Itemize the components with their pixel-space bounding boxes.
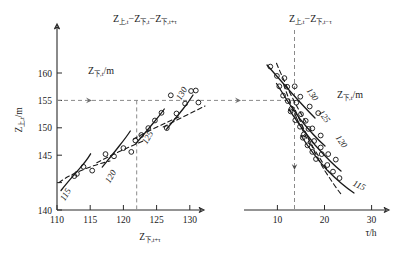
left-contour-label-120: 120 [103,168,119,185]
left-xtick-110: 110 [50,215,64,225]
right-contour-label-115: 115 [351,178,367,193]
nomograph-figure: 140 145 150 155 160 110 115 120 125 130 … [0,0,408,264]
right-family-label: Z下,t/m [337,89,363,102]
right-x-ticks [277,205,371,210]
left-ytick-155: 155 [38,96,53,106]
left-panel-title: Z上,t−Z下,t−Z下,t+τ [113,13,177,26]
right-panel-title: Z上,t−Z下,t−τ [289,13,332,26]
left-y-axis-label: Z上,t/m [14,107,25,133]
left-contour-label-125: 125 [140,129,156,146]
left-ytick-160: 160 [38,69,53,79]
left-x-ticks [57,205,190,210]
right-xtick-20: 20 [320,215,330,225]
left-xlabel-sub: 下,t+τ [145,236,161,244]
left-contour-130: 130 [163,85,205,129]
right-contour-label-120: 120 [333,133,349,150]
left-contour-label-115: 115 [58,186,73,203]
left-ytick-150: 150 [38,123,53,133]
right-xtick-10: 10 [273,215,283,225]
left-xtick-120: 120 [116,215,131,225]
left-ylabel-sub: 上,t [17,117,25,127]
left-xtick-125: 125 [149,215,164,225]
left-xtick-115: 115 [83,215,97,225]
right-panel: 10 20 30 τ/h Z上,t−Z下,t−τ Z下,t/m [200,13,389,238]
left-contour-label-130: 130 [174,85,190,102]
left-family-label: Z下,t/m [88,65,114,78]
right-contour-label-130: 130 [304,86,320,103]
left-xtick-130: 130 [183,215,198,225]
left-ytick-140: 140 [38,206,53,216]
left-x-axis-label: Z下,t+τ [139,232,161,244]
left-contour-115: 115 [58,152,110,203]
svg-text:Z上,t/m: Z上,t/m [14,107,25,133]
left-panel: 140 145 150 155 160 110 115 120 125 130 … [14,13,205,244]
right-xtick-30: 30 [367,215,377,225]
left-ytick-145: 145 [38,151,53,161]
right-x-axis-label: τ/h [365,228,376,238]
left-ylabel-unit: /m [14,107,24,118]
right-contour-130: 130 [267,63,321,122]
